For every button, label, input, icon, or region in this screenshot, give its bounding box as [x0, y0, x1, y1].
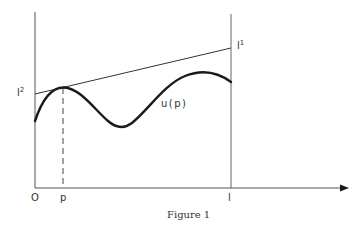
label-l2: l2 — [17, 88, 24, 98]
diagram-svg — [0, 0, 364, 228]
curve-u — [35, 72, 231, 127]
label-origin: O — [31, 193, 39, 203]
figure-1: l2 l1 u(p) O p l Figure 1 — [0, 0, 364, 228]
label-u-p: u(p) — [161, 99, 188, 109]
figure-caption: Figure 1 — [167, 210, 210, 220]
label-p: p — [60, 193, 66, 203]
label-l1: l1 — [237, 41, 244, 51]
x-axis-arrow-icon — [340, 185, 349, 192]
label-l-axis: l — [228, 193, 231, 203]
label-l1-sup: 1 — [240, 39, 244, 47]
label-l2-sup: 2 — [20, 86, 24, 94]
